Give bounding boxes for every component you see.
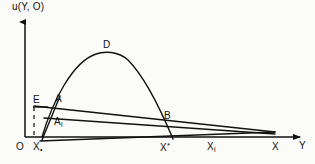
origin-label: O — [16, 142, 24, 152]
diagram-canvas — [0, 0, 315, 164]
point-label-d: D — [103, 40, 110, 50]
x-tick-x-zero: X• — [33, 142, 43, 153]
x-tick-x-star-sup: * — [167, 141, 170, 150]
point-label-a-sub-index: l — [61, 121, 63, 128]
x-tick-x-one-base: X — [207, 141, 214, 152]
x-tick-x-star-base: X — [160, 142, 167, 153]
x-tick-x-zero-base: X — [33, 141, 40, 152]
y-axis-title: u(Y, O) — [12, 2, 44, 12]
figure-container: u(Y, O) Y O E A Al D B X• X* Xl X — [0, 0, 315, 164]
x-tick-x-plain: X — [272, 142, 279, 152]
x-tick-x-star: X* — [160, 142, 170, 153]
point-label-e: E — [33, 95, 40, 105]
upper-line-left-stub — [34, 106, 275, 132]
x-tick-x-one: Xl — [207, 142, 216, 153]
point-label-a-sub: Al — [54, 117, 63, 128]
x-tick-x-zero-sub: • — [40, 146, 43, 153]
lower-line — [44, 118, 275, 134]
point-label-b: B — [164, 111, 171, 121]
x-axis-title: Y — [299, 141, 306, 151]
point-label-a: A — [55, 94, 62, 104]
x-tick-x-one-sub: l — [214, 146, 216, 153]
point-label-a-sub-base: A — [54, 116, 61, 127]
